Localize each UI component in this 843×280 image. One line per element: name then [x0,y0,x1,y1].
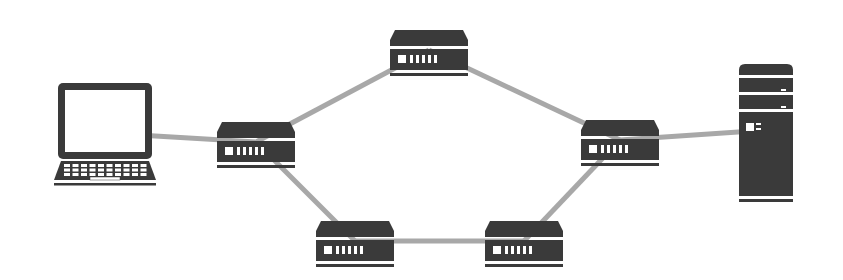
laptop-node: Laptop [54,83,156,186]
server-node: Server [739,64,793,202]
server-tower-icon [739,64,793,202]
router-4-node: Router 4 [316,221,394,267]
router-icon [217,122,295,168]
network-diagram: Network topology LaptopRouter 1Router 2R… [0,0,843,280]
nodes-layer: LaptopRouter 1Router 2Router 3Router 4Ro… [54,30,793,267]
router-icon [390,30,468,76]
router-3-node: Router 3 [581,120,659,166]
router-1-node: Router 1 [217,122,295,168]
router-icon [316,221,394,267]
laptop-icon [54,83,156,186]
router-icon [581,120,659,166]
router-2-node: Router 2 [390,30,468,76]
links-layer [105,50,766,241]
diagram-canvas: LaptopRouter 1Router 2Router 3Router 4Ro… [0,0,843,280]
router-5-node: Router 5 [485,221,563,267]
router-icon [485,221,563,267]
